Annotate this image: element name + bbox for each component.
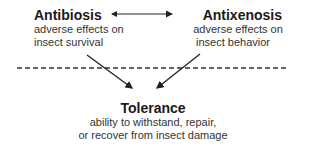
antixenosis-desc-2: insect behavior [188,36,288,49]
node-tolerance: Tolerance ability to withstand, repair, … [73,100,233,142]
antixenosis-title: Antixenosis [188,7,288,23]
antibiosis-title: Antibiosis [34,7,124,23]
tolerance-title: Tolerance [73,100,233,116]
antibiosis-desc-1: adverse effects on [34,23,124,36]
antixenosis-desc-1: adverse effects on [188,23,288,36]
node-antibiosis: Antibiosis adverse effects on insect sur… [34,7,124,49]
antibiosis-desc-2: insect survival [34,36,124,49]
arrow-antibiosis-to-tolerance [87,55,132,88]
arrow-antixenosis-to-tolerance [157,54,200,88]
node-antixenosis: Antixenosis adverse effects on insect be… [188,7,288,49]
tolerance-desc-2: or recover from insect damage [73,129,233,142]
tolerance-desc-1: ability to withstand, repair, [73,116,233,129]
